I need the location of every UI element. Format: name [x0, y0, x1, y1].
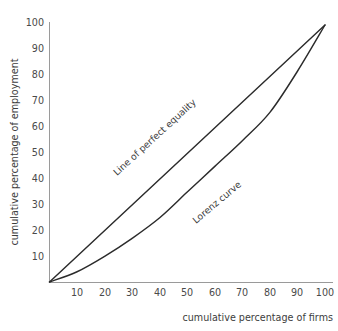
y-tick-label: 90 [32, 43, 44, 54]
x-tick-label: 30 [126, 287, 138, 298]
y-tick-label: 60 [32, 121, 44, 132]
x-tick-label: 10 [71, 287, 83, 298]
x-tick-label: 20 [99, 287, 111, 298]
lorenz-curve-figure: 100 90 80 70 60 50 40 30 20 10 10 20 30 … [0, 0, 338, 331]
y-tick-label: 20 [32, 225, 44, 236]
x-tick-label: 40 [154, 287, 166, 298]
y-tick-label: 100 [26, 17, 44, 28]
x-tick-label: 100 [316, 287, 334, 298]
y-tick-label: 70 [32, 95, 44, 106]
y-tick-label: 50 [32, 147, 44, 158]
y-axis-title: cumulative percentage of employment [9, 58, 20, 245]
chart-canvas: 100 90 80 70 60 50 40 30 20 10 10 20 30 … [0, 0, 338, 331]
x-axis-title: cumulative percentage of firms [182, 312, 333, 323]
x-tick-label: 70 [236, 287, 248, 298]
y-tick-label: 80 [32, 69, 44, 80]
y-tick-label: 30 [32, 199, 44, 210]
y-tick-label: 40 [32, 173, 44, 184]
line-of-perfect-equality [50, 25, 326, 282]
line-of-perfect-equality-label: Line of perfect equality [111, 96, 198, 177]
x-tick-label: 90 [291, 287, 303, 298]
y-tick-label: 10 [32, 251, 44, 262]
x-tick-label: 50 [181, 287, 193, 298]
x-tick-label: 80 [264, 287, 276, 298]
lorenz-curve-label: Lorenz curve [190, 178, 243, 225]
x-tick-label: 60 [209, 287, 221, 298]
